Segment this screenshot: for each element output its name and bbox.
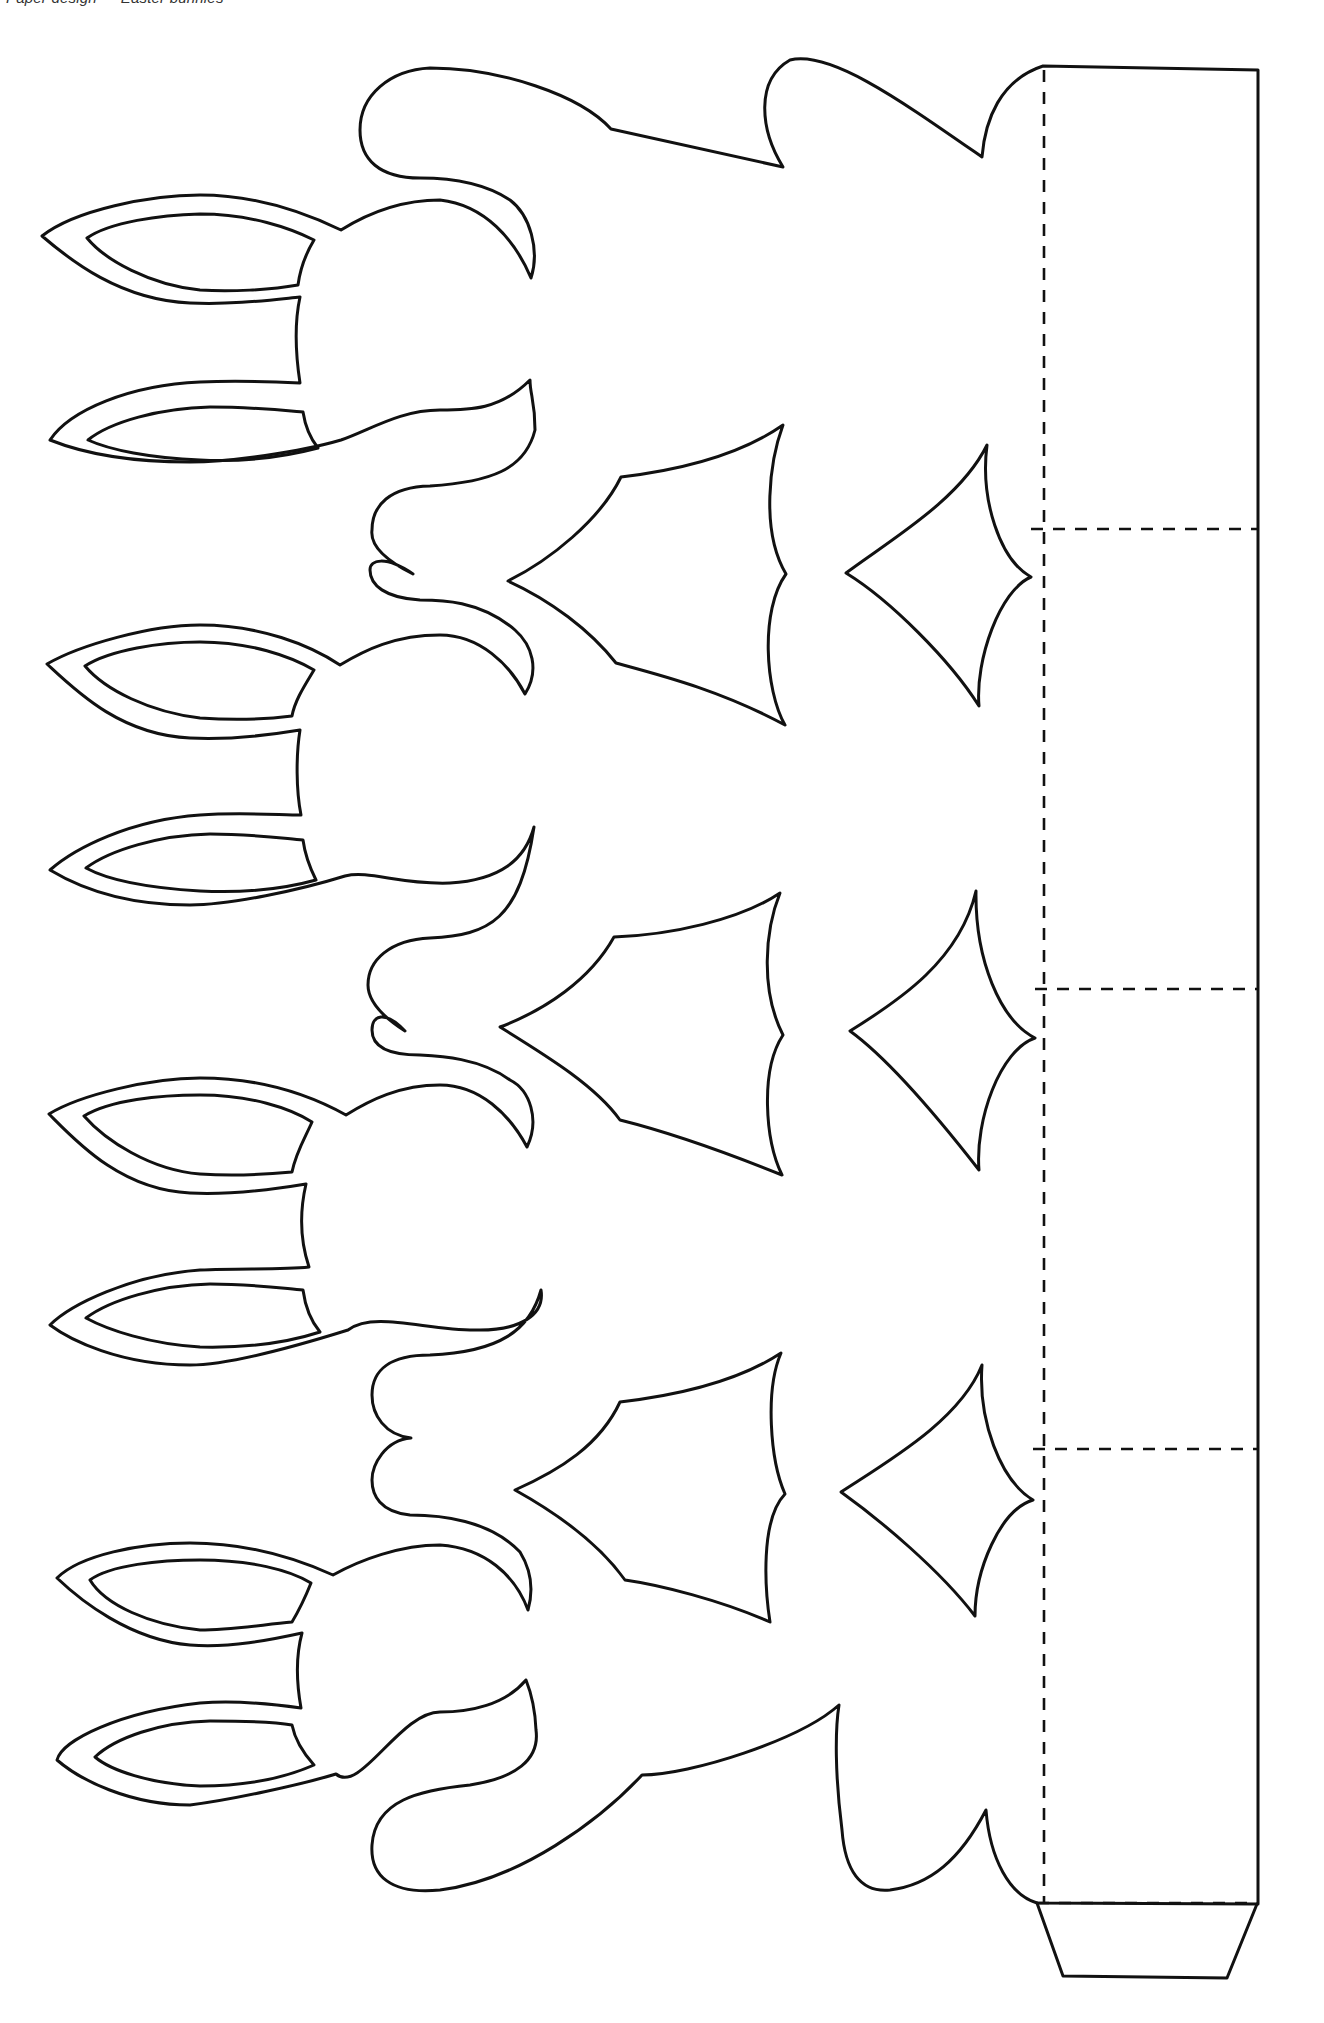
bunny-1-inner-ear-upper [87,214,314,291]
bunny-4 [90,1560,314,1786]
diamond-cutout-2 [850,891,1035,1170]
leg-cutout-1 [508,425,786,725]
bunny-2-inner-ear-lower [86,834,316,892]
outer-cut-outline [42,59,1258,1904]
diamond-cutout-3 [841,1365,1033,1616]
bunny-3-inner-ear-lower [86,1284,320,1347]
bunny-1 [87,214,318,461]
cutout-row-2 [500,891,1035,1175]
leg-cutout-2 [500,893,783,1175]
bunny-4-inner-ear-lower [95,1721,314,1786]
bunny-basket-dieline [0,0,1324,2023]
cutout-row-1 [508,425,1031,725]
bunny-3-inner-ear-upper [84,1095,312,1175]
diamond-cutout-1 [846,445,1031,706]
cutout-row-3 [515,1353,1033,1622]
bunny-4-inner-ear-upper [90,1560,311,1630]
leg-cutout-3 [515,1353,785,1622]
bunny-2 [85,642,316,892]
bunny-2-inner-ear-upper [85,642,314,719]
bunny-3 [84,1095,320,1347]
glue-tab [1037,1903,1257,1978]
